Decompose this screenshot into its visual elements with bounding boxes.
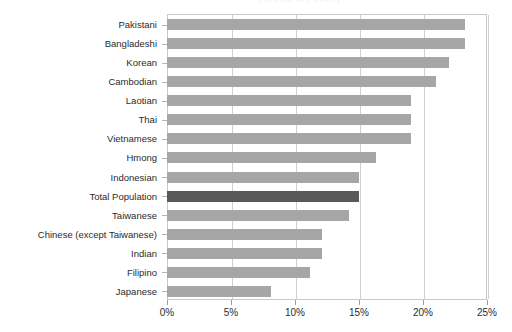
- category-tick: [162, 253, 167, 254]
- category-tick: [162, 196, 167, 197]
- category-tick: [162, 63, 167, 64]
- bar: [167, 248, 322, 259]
- gridline-25: [488, 15, 489, 299]
- bar: [167, 152, 376, 163]
- bar-row: [167, 206, 487, 226]
- value-tick: [423, 300, 424, 305]
- bar-row: [167, 15, 487, 35]
- category-tick: [162, 291, 167, 292]
- value-tick: [231, 300, 232, 305]
- bar: [167, 133, 411, 144]
- category-label: Hmong: [0, 148, 161, 168]
- category-label: Pakistani: [0, 15, 161, 35]
- category-tick: [162, 25, 167, 26]
- bar-row: [167, 225, 487, 245]
- bar: [167, 19, 465, 30]
- category-label: Japanese: [0, 282, 161, 302]
- category-label: Laotian: [0, 91, 161, 111]
- category-tick: [162, 120, 167, 121]
- category-axis: PakistaniBangladeshiKoreanCambodianLaoti…: [0, 14, 161, 300]
- value-tick: [487, 300, 488, 305]
- category-tick: [162, 139, 167, 140]
- category-label: Chinese (except Taiwanese): [0, 225, 161, 245]
- bar-row: [167, 168, 487, 188]
- bar: [167, 191, 359, 202]
- bar-row: [167, 53, 487, 73]
- category-tick: [162, 158, 167, 159]
- category-tick: [162, 272, 167, 273]
- value-tick-label: 15%: [349, 307, 369, 318]
- value-tick-label: 25%: [477, 307, 497, 318]
- category-label: Indian: [0, 244, 161, 264]
- bar-row: [167, 148, 487, 168]
- value-tick-label: 10%: [285, 307, 305, 318]
- value-tick: [295, 300, 296, 305]
- bar-row: [167, 34, 487, 54]
- category-tick: [162, 44, 167, 45]
- bar-row: [167, 244, 487, 264]
- bar-chart: Percent in Poverty PakistaniBangladeshiK…: [0, 0, 512, 332]
- bar-row: [167, 263, 487, 283]
- bar-row: [167, 72, 487, 92]
- bars-layer: [167, 14, 487, 300]
- category-label: Taiwanese: [0, 206, 161, 226]
- category-tick: [162, 177, 167, 178]
- value-tick-label: 0%: [160, 307, 174, 318]
- category-tick: [162, 215, 167, 216]
- category-tick: [162, 82, 167, 83]
- bar: [167, 38, 465, 49]
- category-label: Filipino: [0, 263, 161, 283]
- bar: [167, 76, 436, 87]
- value-axis: 0%5%10%15%20%25%: [167, 300, 487, 330]
- bar-row: [167, 187, 487, 207]
- value-tick-label: 5%: [224, 307, 238, 318]
- bar-row: [167, 129, 487, 149]
- bar-row: [167, 282, 487, 302]
- category-label: Thai: [0, 110, 161, 130]
- category-label: Korean: [0, 53, 161, 73]
- bar-row: [167, 110, 487, 130]
- category-label: Cambodian: [0, 72, 161, 92]
- value-tick: [167, 300, 168, 305]
- bar: [167, 172, 359, 183]
- category-label: Indonesian: [0, 168, 161, 188]
- bar: [167, 210, 349, 221]
- value-tick-label: 20%: [413, 307, 433, 318]
- bar: [167, 229, 322, 240]
- value-tick: [359, 300, 360, 305]
- category-label: Bangladeshi: [0, 34, 161, 54]
- bar: [167, 267, 310, 278]
- bar: [167, 286, 271, 297]
- category-tick: [162, 101, 167, 102]
- bar: [167, 95, 411, 106]
- category-tick: [162, 234, 167, 235]
- category-label: Total Population: [0, 187, 161, 207]
- chart-title: Percent in Poverty: [170, 0, 430, 4]
- bar-row: [167, 91, 487, 111]
- category-label: Vietnamese: [0, 129, 161, 149]
- bar: [167, 114, 411, 125]
- bar: [167, 57, 449, 68]
